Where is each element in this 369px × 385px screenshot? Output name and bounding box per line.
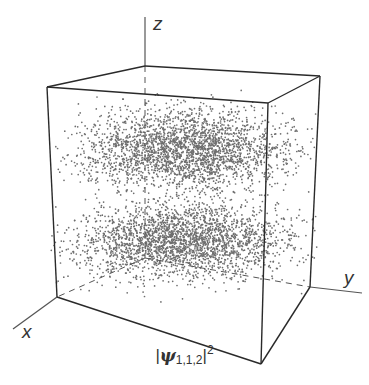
y-axis-label: y (344, 268, 354, 287)
z-axis-label: z (153, 14, 163, 33)
psi-symbol: ψ (160, 345, 176, 365)
probability-dots (50, 90, 317, 303)
exponent: 2 (207, 343, 214, 357)
box-edges (47, 66, 320, 364)
x-axis-label: x (22, 322, 32, 341)
quantum-numbers: 1,1,2 (176, 353, 203, 367)
figure-caption: |ψ1,1,2|2 (0, 344, 369, 366)
wavefunction-density-plot (0, 0, 369, 385)
